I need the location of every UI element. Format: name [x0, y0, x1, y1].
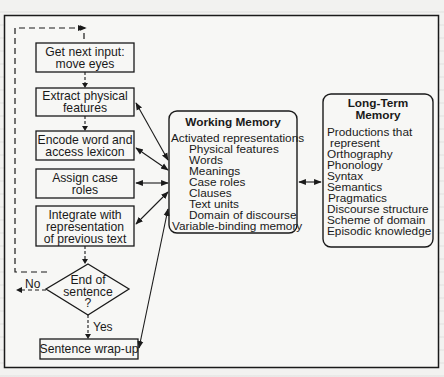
svg-text:access lexicon: access lexicon [45, 145, 124, 159]
step-get-next-input: Get next input: move eyes [36, 43, 134, 72]
svg-text:Variable-binding memory: Variable-binding memory [172, 219, 302, 233]
step-integrate: Integrate with representation of previou… [36, 206, 134, 246]
reading-model-diagram: Get next input: move eyes Extract physic… [0, 0, 444, 377]
svg-text:move eyes: move eyes [56, 57, 115, 71]
svg-text:roles: roles [72, 183, 98, 197]
svg-text:features: features [63, 101, 107, 115]
step-sentence-wrap-up: Sentence wrap-up [40, 339, 139, 359]
svg-text:Memory: Memory [355, 108, 401, 122]
step-extract-physical-features: Extract physical features [36, 88, 134, 116]
svg-text:Working Memory: Working Memory [185, 115, 281, 129]
no-label: No [25, 277, 41, 291]
svg-text:Sentence wrap-up: Sentence wrap-up [40, 342, 139, 356]
long-term-memory-box: Long-Term Memory Productions that repres… [323, 94, 433, 247]
step-assign-case-roles: Assign case roles [36, 169, 134, 198]
svg-text:of previous text: of previous text [44, 232, 127, 246]
svg-text:?: ? [85, 296, 92, 310]
step-encode-word: Encode word and access lexicon [36, 131, 134, 160]
working-memory-box: Working Memory Activated representations… [169, 111, 304, 233]
svg-text:Episodic knowledge: Episodic knowledge [327, 224, 432, 238]
yes-label: Yes [93, 320, 113, 334]
